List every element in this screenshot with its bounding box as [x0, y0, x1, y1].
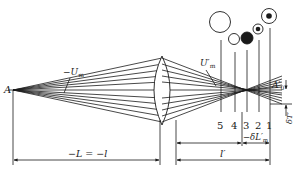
spot-3-filled-circle-icon — [241, 32, 253, 44]
spot-5-large-open-circle-icon — [210, 12, 231, 33]
spherical-aberration-diagram: A −Um U′m 5 4 3 2 1 A′0 — [0, 0, 295, 178]
paraxial-image-label: A′0 — [271, 80, 285, 91]
spot-4-small-open-circle-icon — [229, 34, 240, 45]
svg-text:5: 5 — [217, 120, 223, 131]
svg-text:4: 4 — [231, 120, 237, 131]
svg-text:2: 2 — [255, 120, 261, 131]
svg-text:3: 3 — [243, 120, 249, 131]
plane-labels: 5 4 3 2 1 — [217, 120, 272, 131]
spot-diagrams — [210, 9, 277, 45]
transverse-aberration-label: δT′ — [285, 112, 294, 124]
svg-text:1: 1 — [266, 120, 272, 131]
object-aperture-angle-label: −Um — [63, 67, 84, 78]
image-distance-label: l′ — [220, 148, 226, 159]
object-distance-label: −L = −l — [68, 148, 107, 159]
image-aperture-angle-label: U′m — [200, 58, 216, 69]
longitudinal-aberration-label: −δL′m — [243, 132, 269, 143]
object-point-label: A — [3, 84, 11, 95]
